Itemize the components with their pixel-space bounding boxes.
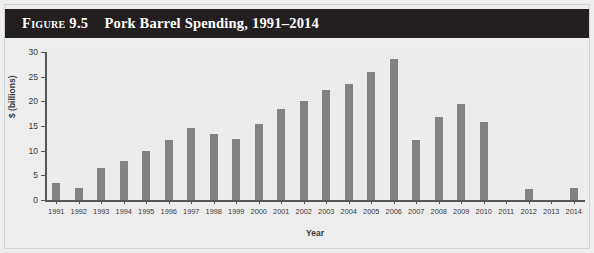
x-tick-label: 2008: [431, 207, 447, 216]
x-tick-label: 2004: [341, 207, 357, 216]
x-tick: [101, 201, 102, 204]
x-tick: [551, 201, 552, 204]
x-tick: [304, 201, 305, 204]
x-tick: [56, 201, 57, 204]
bar: [345, 84, 353, 200]
x-tick-label: 1993: [93, 207, 109, 216]
x-tick-label: 2001: [273, 207, 289, 216]
y-axis-line: [45, 52, 47, 200]
figure-number-label: Figure 9.5: [22, 15, 88, 32]
x-tick-label: 2007: [408, 207, 424, 216]
bar: [300, 101, 308, 200]
x-tick-label: 2000: [251, 207, 267, 216]
bar: [255, 124, 263, 200]
y-tick: [41, 200, 45, 201]
bar: [277, 109, 285, 200]
y-tick: [41, 77, 45, 78]
bar: [457, 104, 465, 200]
bar: [210, 134, 218, 200]
x-axis-line: [45, 200, 585, 202]
bar: [75, 188, 83, 200]
x-tick: [259, 201, 260, 204]
bar: [322, 90, 330, 200]
x-tick: [574, 201, 575, 204]
page-title: Pork Barrel Spending, 1991–2014: [104, 15, 319, 32]
x-tick: [214, 201, 215, 204]
x-tick-label: 1997: [183, 207, 199, 216]
chart-area: $ (billions) 051015202530 19911992199319…: [5, 40, 589, 248]
x-tick-label: 2002: [296, 207, 312, 216]
x-axis-title: Year: [45, 228, 585, 238]
x-tick: [416, 201, 417, 204]
x-tick: [394, 201, 395, 204]
y-axis-title: $ (billions): [7, 76, 17, 119]
bar: [435, 117, 443, 200]
y-tick-label: 15: [29, 121, 38, 131]
figure-container: Figure 9.5 Pork Barrel Spending, 1991–20…: [0, 0, 594, 253]
y-tick-label: 30: [29, 47, 38, 57]
bar: [367, 72, 375, 200]
x-tick-label: 1996: [161, 207, 177, 216]
y-tick: [41, 126, 45, 127]
x-tick: [461, 201, 462, 204]
y-tick: [41, 151, 45, 152]
bar: [165, 140, 173, 200]
x-tick-label: 2005: [363, 207, 379, 216]
bar: [412, 140, 420, 200]
x-tick-label: 2009: [453, 207, 469, 216]
x-tick-label: 2013: [543, 207, 559, 216]
y-tick-label: 0: [33, 195, 38, 205]
x-tick-label: 1999: [228, 207, 244, 216]
bar: [570, 188, 578, 200]
x-tick: [191, 201, 192, 204]
x-tick-label: 1994: [116, 207, 132, 216]
x-tick: [506, 201, 507, 204]
x-tick: [124, 201, 125, 204]
bar: [120, 161, 128, 200]
bar: [187, 128, 195, 200]
y-tick-label: 5: [33, 170, 38, 180]
x-tick-label: 1998: [206, 207, 222, 216]
bar: [390, 59, 398, 200]
plot-region: 051015202530 199119921993199419951996199…: [45, 52, 585, 200]
x-tick: [281, 201, 282, 204]
x-tick-label: 2003: [318, 207, 334, 216]
x-tick-label: 1992: [71, 207, 87, 216]
x-tick-label: 2006: [386, 207, 402, 216]
bar: [232, 139, 240, 200]
x-tick: [439, 201, 440, 204]
x-tick-label: 2010: [476, 207, 492, 216]
x-tick: [529, 201, 530, 204]
x-tick-label: 2012: [521, 207, 537, 216]
bar: [97, 168, 105, 200]
x-tick: [236, 201, 237, 204]
x-tick: [371, 201, 372, 204]
bar: [52, 183, 60, 200]
bar: [480, 122, 488, 200]
y-tick: [41, 101, 45, 102]
x-tick-label: 1991: [48, 207, 64, 216]
y-tick-label: 10: [29, 146, 38, 156]
x-tick-label: 2014: [566, 207, 582, 216]
y-tick: [41, 52, 45, 53]
x-tick: [484, 201, 485, 204]
x-tick: [79, 201, 80, 204]
bar: [142, 151, 150, 200]
x-tick-label: 2011: [498, 207, 514, 216]
figure-title-banner: Figure 9.5 Pork Barrel Spending, 1991–20…: [5, 9, 589, 38]
x-tick-label: 1995: [138, 207, 154, 216]
y-tick-label: 20: [29, 96, 38, 106]
x-tick: [169, 201, 170, 204]
bar: [525, 189, 533, 200]
x-tick: [349, 201, 350, 204]
y-tick-label: 25: [29, 72, 38, 82]
y-tick: [41, 175, 45, 176]
x-tick: [146, 201, 147, 204]
x-tick: [326, 201, 327, 204]
